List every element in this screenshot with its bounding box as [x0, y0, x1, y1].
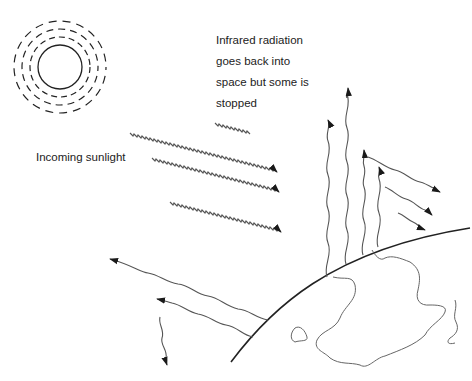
outgoing-infrared-rays [326, 88, 380, 277]
incoming-sunlight-rays [130, 123, 281, 232]
scattered-left-rays [110, 259, 268, 365]
infrared-label: Infrared radiation goes back into space … [216, 30, 309, 114]
sun-icon [14, 21, 106, 113]
incoming-sunlight-label: Incoming sunlight [36, 147, 126, 168]
earth-surface [231, 228, 470, 362]
infrared-label-line-3: space but some is [216, 72, 309, 93]
infrared-label-line-2: goes back into [216, 51, 309, 72]
landmass-outlines [291, 250, 457, 366]
infrared-label-line-4: stopped [216, 93, 309, 114]
infrared-label-line-1: Infrared radiation [216, 30, 309, 51]
